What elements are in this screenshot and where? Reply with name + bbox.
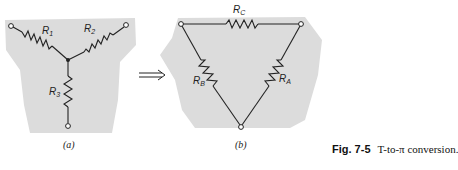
figure-number: Fig. 7-5 bbox=[332, 143, 371, 155]
panel-a-label: (a) bbox=[63, 139, 75, 151]
terminal-b-right bbox=[299, 22, 304, 27]
panel-b-label: (b) bbox=[235, 139, 247, 151]
label-rc: RC bbox=[233, 4, 246, 16]
terminal-a-right bbox=[124, 23, 129, 28]
terminal-b-left bbox=[179, 22, 184, 27]
shade-panel-b bbox=[160, 17, 322, 128]
terminal-a-left bbox=[9, 24, 14, 29]
junction-dot bbox=[66, 58, 70, 62]
terminal-a-bottom bbox=[66, 124, 71, 129]
caption-text: T-to-π conversion. bbox=[378, 143, 458, 155]
shade-panel-a bbox=[5, 18, 136, 133]
terminal-b-bottom bbox=[239, 125, 244, 130]
conversion-arrow-icon bbox=[139, 70, 165, 80]
figure-caption: Fig. 7-5T-to-π conversion. bbox=[332, 143, 458, 155]
